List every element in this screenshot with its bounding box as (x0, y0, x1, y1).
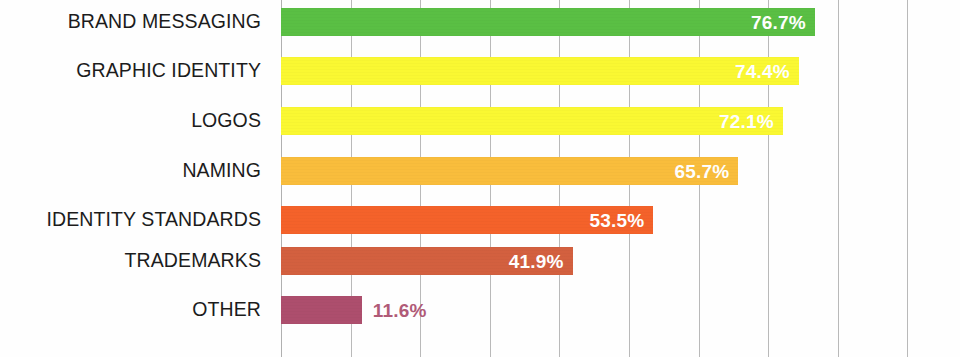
category-axis: BRAND MESSAGINGGRAPHIC IDENTITYLOGOSNAMI… (0, 0, 271, 357)
category-label: GRAPHIC IDENTITY (76, 61, 261, 81)
bar: 76.7% (281, 8, 815, 36)
category-label: NAMING (182, 161, 261, 181)
bar-value-label: 11.6% (373, 301, 427, 320)
bar: 53.5% (281, 206, 653, 234)
category-label: LOGOS (191, 111, 261, 131)
category-label: BRAND MESSAGING (68, 12, 261, 32)
bar: 65.7% (281, 157, 738, 185)
bar-series: 76.7%74.4%72.1%65.7%53.5%41.9%11.6% (281, 0, 960, 357)
bar-chart: BRAND MESSAGINGGRAPHIC IDENTITYLOGOSNAMI… (0, 0, 960, 357)
bar: 74.4% (281, 57, 799, 85)
category-label: OTHER (192, 300, 261, 320)
bar-value-label: 53.5% (589, 211, 644, 230)
bar: 72.1% (281, 107, 783, 135)
category-label: TRADEMARKS (125, 251, 261, 271)
category-label: IDENTITY STANDARDS (46, 210, 261, 230)
bar-value-label: 65.7% (674, 162, 729, 181)
bar-value-label: 72.1% (719, 112, 774, 131)
bar-value-label: 76.7% (751, 13, 806, 32)
bar-value-label: 74.4% (735, 62, 790, 81)
bar-value-label: 41.9% (509, 252, 564, 271)
bar: 11.6% (281, 296, 362, 324)
bar: 41.9% (281, 247, 573, 275)
plot-area: 76.7%74.4%72.1%65.7%53.5%41.9%11.6% (281, 0, 960, 357)
